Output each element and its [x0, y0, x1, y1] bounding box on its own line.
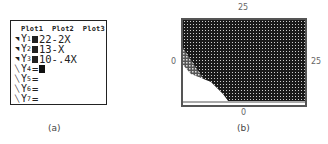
function-row-y5[interactable]: ╲ Y5 =	[15, 74, 106, 84]
shaded-region-plot	[183, 20, 305, 105]
equals-sign: =	[32, 94, 38, 104]
function-row-y6[interactable]: ╲ Y6 =	[15, 84, 106, 94]
equals-selected-icon[interactable]	[32, 46, 38, 53]
caption-a: (a)	[48, 123, 61, 133]
xmin-label: 0	[171, 57, 176, 66]
caption-b: (b)	[237, 123, 250, 133]
ymax-label: 25	[238, 3, 248, 12]
equals-selected-icon[interactable]	[32, 56, 38, 63]
function-row-y4[interactable]: ╲ Y4 =	[15, 64, 106, 74]
xmax-label: 25	[311, 57, 321, 66]
function-expr[interactable]: 10-.4X	[39, 54, 77, 64]
equals-selected-icon[interactable]	[32, 36, 38, 43]
function-row-y3[interactable]: ◥ Y3 10-.4X	[15, 54, 106, 64]
calculator-y-editor: Plot1 Plot2 Plot3 ◥ Y1 22-2X ◥ Y2 13-X ◥…	[10, 20, 107, 105]
text-cursor[interactable]	[39, 65, 45, 73]
ymin-label: 0	[241, 108, 246, 117]
function-row-y7[interactable]: ╲ Y7 =	[15, 94, 106, 104]
shaded-graph	[181, 18, 307, 107]
